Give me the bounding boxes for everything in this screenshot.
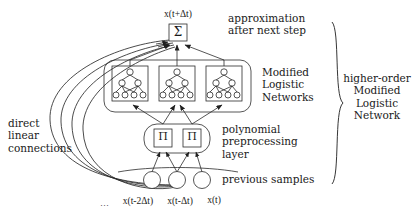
pi2-to-mln3 <box>192 105 222 124</box>
mln-to-sigma-links <box>130 45 224 66</box>
output-label: x(t+Δt) <box>150 9 206 20</box>
direct-linear-connections-label: direct linear connections <box>8 117 72 154</box>
in1-to-pi1 <box>152 152 160 172</box>
higher-order-label: higher-order Modified Logistic Network <box>338 72 416 122</box>
input-label-1: x(t-2Δt) <box>114 196 162 207</box>
mln-box-3 <box>206 66 242 101</box>
modified-logistic-networks-label: Modified Logistic Networks <box>262 66 314 103</box>
input-node-3 <box>194 172 211 189</box>
in2-to-pi2 <box>177 152 189 172</box>
figure-canvas: x(t+Δt) approximation after next step Mo… <box>0 0 416 217</box>
polynomial-layer-label: polynomial preprocessing layer <box>222 123 298 160</box>
input-node-1 <box>144 172 161 189</box>
sigma-symbol: Σ <box>169 25 187 39</box>
mln-box-2 <box>159 66 195 101</box>
pi1-to-mln1 <box>133 105 163 124</box>
input-label-3: x(t) <box>200 195 228 206</box>
mln-box-1 <box>112 66 148 101</box>
input-ellipsis: … <box>100 198 109 209</box>
product-to-mln-links <box>133 105 222 124</box>
input-node-2 <box>169 172 186 189</box>
product-symbol-2: Π <box>183 131 201 144</box>
mln3-to-sigma <box>185 45 224 60</box>
product-symbol-1: Π <box>154 131 172 144</box>
input-to-product-links <box>152 152 202 172</box>
input-label-2: x(t-Δt) <box>158 196 202 207</box>
previous-samples-label: previous samples <box>222 173 314 185</box>
mln-group-container <box>104 60 251 112</box>
in3-to-pi2 <box>196 152 202 172</box>
in2-to-pi1 <box>166 152 177 172</box>
direct-linear-connection-curves <box>50 40 176 189</box>
pi2-to-mln2 <box>180 105 192 124</box>
direct-link-curve-1 <box>50 40 176 185</box>
approximation-label: approximation after next step <box>228 12 306 37</box>
pi1-to-mln2 <box>163 105 175 124</box>
